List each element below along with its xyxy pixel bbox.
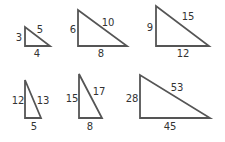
triangle-28-45-53: 28 53 45 xyxy=(126,75,210,132)
base-label: 45 xyxy=(164,121,177,132)
hypotenuse-label: 15 xyxy=(182,11,195,22)
vertical-leg-label: 3 xyxy=(16,32,22,43)
base-label: 8 xyxy=(98,48,104,59)
hypotenuse-label: 10 xyxy=(102,17,115,28)
vertical-leg-label: 6 xyxy=(70,24,76,35)
triangle-3-4-5: 3 5 4 xyxy=(16,24,50,59)
right-triangles-diagram: 3 5 4 6 10 8 9 15 12 12 13 5 15 17 8 28 … xyxy=(0,0,225,142)
vertical-leg-label: 9 xyxy=(147,22,153,33)
triangle-8-15-17: 15 17 8 xyxy=(66,74,106,132)
vertical-leg-label: 28 xyxy=(126,93,139,104)
hypotenuse-label: 17 xyxy=(93,86,106,97)
triangle-5-12-13: 12 13 5 xyxy=(12,80,50,132)
vertical-leg-label: 12 xyxy=(12,95,25,106)
triangle-shape xyxy=(78,10,127,46)
base-label: 12 xyxy=(177,48,190,59)
base-label: 5 xyxy=(31,121,37,132)
base-label: 4 xyxy=(34,48,40,59)
base-label: 8 xyxy=(87,121,93,132)
hypotenuse-label: 53 xyxy=(171,82,184,93)
triangle-9-12-15: 9 15 12 xyxy=(147,6,209,59)
hypotenuse-label: 5 xyxy=(37,24,43,35)
vertical-leg-label: 15 xyxy=(66,93,79,104)
hypotenuse-label: 13 xyxy=(37,95,50,106)
triangle-6-8-10: 6 10 8 xyxy=(70,10,127,59)
